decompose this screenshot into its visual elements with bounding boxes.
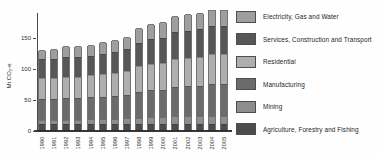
- bar-segment-residential: [75, 77, 81, 99]
- bar-segment-services: [197, 29, 203, 57]
- bar-segment-manufacturing: [75, 98, 81, 120]
- bar-segment-services: [75, 57, 81, 77]
- bar-segment-residential: [39, 78, 45, 99]
- bar-segment-agriculture: [124, 124, 130, 130]
- bar-segment-electricity: [136, 28, 142, 43]
- legend-item-residential: Residential: [236, 55, 378, 68]
- bar-segment-residential: [209, 54, 215, 84]
- legend-swatch-services: [236, 33, 256, 45]
- bar-segment-agriculture: [185, 124, 191, 130]
- bar-segment-electricity: [75, 46, 81, 57]
- bar-2005: [220, 10, 228, 131]
- bar-segment-agriculture: [51, 124, 57, 130]
- bar-segment-manufacturing: [172, 87, 178, 117]
- bar-segment-services: [160, 38, 166, 63]
- legend-swatch-manufacturing: [236, 78, 256, 90]
- x-tick-label-2005: 2005: [215, 132, 233, 154]
- bar-1990: [38, 51, 46, 131]
- legend-item-services: Services, Construction and Transport: [236, 33, 378, 46]
- legend-item-agriculture: Agriculture, Forestry and Fishing: [236, 123, 378, 136]
- bar-1998: [135, 29, 143, 131]
- legend-label-agriculture: Agriculture, Forestry and Fishing: [263, 126, 359, 133]
- y-tick-label: 0: [9, 128, 31, 135]
- bar-segment-residential: [148, 64, 154, 90]
- legend-swatch-residential: [236, 56, 256, 68]
- bar-segment-electricity: [39, 50, 45, 59]
- bar-segment-residential: [51, 78, 57, 99]
- bar-segment-residential: [185, 58, 191, 86]
- bar-1993: [74, 47, 82, 131]
- bar-segment-agriculture: [221, 124, 227, 130]
- bar-segment-mining: [209, 116, 215, 124]
- bar-segment-residential: [197, 57, 203, 86]
- legend-label-electricity: Electricity, Gas and Water: [263, 13, 339, 20]
- y-tick-label: 150: [9, 35, 31, 42]
- bar-2000: [159, 23, 167, 131]
- bar-segment-agriculture: [136, 124, 142, 130]
- bar-segment-manufacturing: [136, 92, 142, 118]
- bar-segment-agriculture: [209, 124, 215, 130]
- bar-segment-agriculture: [100, 124, 106, 130]
- legend-label-residential: Residential: [263, 58, 296, 65]
- bar-segment-agriculture: [172, 124, 178, 130]
- bars-container: [38, 0, 230, 131]
- bar-segment-residential: [160, 63, 166, 90]
- y-tick-mark: [33, 100, 36, 101]
- legend-label-mining: Mining: [263, 103, 282, 110]
- bar-segment-services: [209, 26, 215, 54]
- y-tick-label: 100: [9, 66, 31, 73]
- bar-segment-agriculture: [39, 124, 45, 130]
- legend-swatch-electricity: [236, 11, 256, 23]
- legend-swatch-mining: [236, 101, 256, 113]
- bar-segment-manufacturing: [124, 95, 130, 118]
- bar-segment-mining: [197, 116, 203, 123]
- bar-segment-manufacturing: [209, 84, 215, 116]
- bar-segment-agriculture: [75, 124, 81, 130]
- bar-segment-manufacturing: [100, 97, 106, 119]
- bar-segment-services: [63, 57, 69, 77]
- bar-segment-manufacturing: [39, 99, 45, 119]
- bar-segment-manufacturing: [51, 99, 57, 120]
- legend-label-services: Services, Construction and Transport: [263, 36, 372, 43]
- bar-segment-residential: [136, 66, 142, 92]
- y-tick-mark: [33, 38, 36, 39]
- bar-1991: [50, 50, 58, 131]
- bar-segment-electricity: [63, 46, 69, 56]
- legend-item-mining: Mining: [236, 100, 378, 113]
- bar-segment-electricity: [197, 13, 203, 30]
- bar-segment-electricity: [148, 24, 154, 39]
- bar-segment-agriculture: [88, 124, 94, 130]
- bar-segment-electricity: [172, 16, 178, 33]
- bar-segment-electricity: [124, 37, 130, 50]
- legend-label-manufacturing: Manufacturing: [263, 81, 305, 88]
- legend: Electricity, Gas and WaterServices, Cons…: [236, 10, 378, 145]
- bar-segment-services: [88, 56, 94, 76]
- bar-segment-services: [39, 59, 45, 78]
- bar-segment-electricity: [100, 42, 106, 54]
- bar-segment-services: [124, 49, 130, 71]
- bar-1995: [99, 43, 107, 131]
- bar-segment-agriculture: [148, 124, 154, 130]
- bar-segment-manufacturing: [160, 90, 166, 117]
- bar-segment-electricity: [51, 49, 57, 59]
- bar-segment-services: [185, 31, 191, 58]
- plot-area: Mt CO₂-e 050100150 199019911992199319941…: [0, 0, 235, 155]
- bar-segment-electricity: [221, 10, 227, 27]
- bar-segment-electricity: [185, 14, 191, 31]
- bar-segment-mining: [160, 117, 166, 124]
- bar-segment-agriculture: [160, 124, 166, 130]
- bar-1997: [123, 38, 131, 131]
- bar-1992: [62, 47, 70, 131]
- bar-segment-residential: [63, 77, 69, 99]
- bar-segment-residential: [172, 59, 178, 87]
- bar-segment-mining: [148, 117, 154, 124]
- bar-segment-manufacturing: [221, 84, 227, 116]
- bar-segment-agriculture: [112, 124, 118, 130]
- bar-segment-residential: [112, 73, 118, 96]
- y-tick-label: 50: [9, 97, 31, 104]
- y-tick-mark: [33, 69, 36, 70]
- x-axis-labels: 1990199119921993199419951996199719981999…: [38, 132, 230, 154]
- bar-segment-manufacturing: [63, 98, 69, 120]
- bar-segment-services: [100, 54, 106, 74]
- bar-2003: [196, 14, 204, 131]
